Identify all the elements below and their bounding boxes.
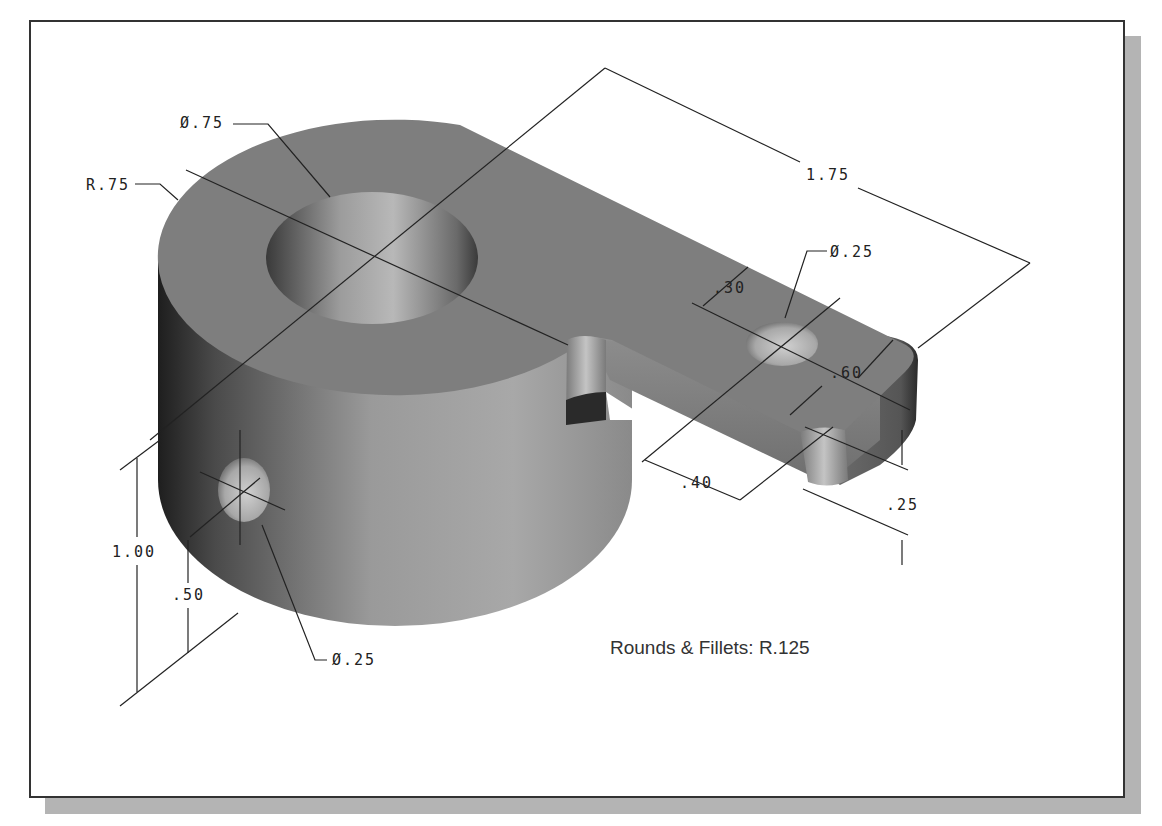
dim-side-hole: Ø.25 — [332, 651, 376, 669]
dim-arm-hole-offset: .30 — [713, 279, 746, 297]
dim-arm-end-offset: .40 — [680, 474, 713, 492]
dim-side-hole-height: .50 — [172, 586, 205, 604]
dim-arm-width: .60 — [830, 364, 863, 382]
part-drawing: Ø.75 R.75 1.75 Ø.25 .30 .60 .40 .25 1.00… — [0, 0, 1162, 826]
rounds-fillets-note: Rounds & Fillets: R.125 — [610, 637, 810, 658]
dim-center-distance: 1.75 — [806, 166, 850, 184]
dim-outer-radius: R.75 — [86, 176, 130, 194]
side-hole — [218, 458, 270, 522]
dim-main-bore: Ø.75 — [180, 114, 224, 132]
dim-cylinder-height: 1.00 — [112, 543, 156, 561]
dim-arm-hole: Ø.25 — [830, 243, 874, 261]
dim-arm-thickness: .25 — [886, 496, 919, 514]
